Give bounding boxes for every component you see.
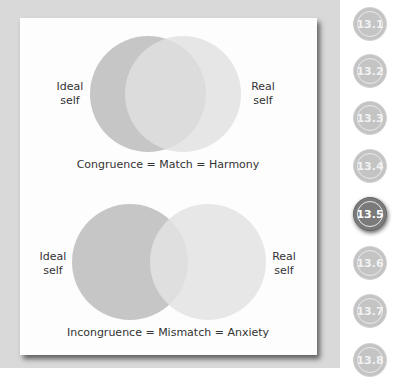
label-line: Ideal: [33, 250, 73, 264]
congruence-caption: Congruence = Match = Harmony: [38, 158, 298, 171]
section-badge-13-7[interactable]: 13.7: [353, 294, 387, 328]
section-badge-13-3[interactable]: 13.3: [353, 101, 387, 135]
ideal-self-label-top: Ideal self: [50, 80, 90, 108]
section-badge-13-5[interactable]: 13.5: [353, 197, 387, 231]
label-line: self: [243, 94, 283, 108]
label-line: self: [50, 94, 90, 108]
section-badge-13-2[interactable]: 13.2: [353, 54, 387, 88]
badge-label: 13.1: [356, 18, 383, 31]
section-badge-13-1[interactable]: 13.1: [353, 7, 387, 41]
badge-label: 13.8: [356, 354, 383, 367]
real-self-circle: [150, 204, 266, 320]
section-badge-13-6[interactable]: 13.6: [353, 246, 387, 280]
congruence-venn: [90, 36, 241, 152]
badge-label: 13.3: [356, 112, 383, 125]
label-line: Ideal: [50, 80, 90, 94]
label-line: Real: [243, 80, 283, 94]
incongruence-venn: [72, 204, 266, 320]
label-line: self: [264, 264, 304, 278]
badge-label: 13.6: [356, 257, 383, 270]
real-self-circle: [125, 36, 241, 152]
label-line: self: [33, 264, 73, 278]
badge-label: 13.7: [356, 305, 383, 318]
ideal-self-label-bottom: Ideal self: [33, 250, 73, 278]
badge-label: 13.2: [356, 65, 383, 78]
section-badge-13-8[interactable]: 13.8: [353, 343, 387, 377]
badge-label: 13.5: [356, 208, 383, 221]
section-badge-13-4[interactable]: 13.4: [353, 149, 387, 183]
badge-label: 13.4: [356, 160, 383, 173]
real-self-label-bottom: Real self: [264, 250, 304, 278]
label-line: Real: [264, 250, 304, 264]
incongruence-caption: Incongruence = Mismatch = Anxiety: [38, 326, 298, 339]
real-self-label-top: Real self: [243, 80, 283, 108]
